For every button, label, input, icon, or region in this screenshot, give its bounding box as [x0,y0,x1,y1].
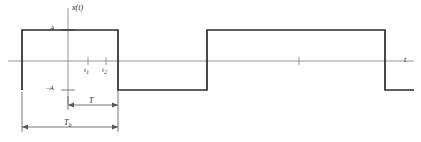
dimension-Tb-label-subscript: b [69,122,72,128]
dimension-Tb-label: Tb [64,119,71,127]
dimension-T-arrow-left [68,103,74,108]
dimension-Tb-arrow-right [112,125,118,130]
signal-axis-label: x(t) [72,4,83,12]
tick-label-t2-subscript: 2 [104,69,107,75]
pulse-train-waveform [22,30,414,90]
amplitude-positive-label: A [50,25,54,32]
dimension-T-label: T [89,97,93,105]
tick-label-t1-subscript: 1 [86,69,89,75]
time-axis-label: t [404,56,406,64]
dimension-Tb-label-base: T [64,118,68,127]
dimension-T-arrow-right [112,103,118,108]
tick-label-t1: t1 [84,67,89,74]
waveform-figure: x(t) t A –A t1 t2 T Tb [0,0,421,142]
amplitude-negative-label: –A [46,85,54,92]
dimension-Tb-arrow-left [22,125,28,130]
tick-label-t2: t2 [102,67,107,74]
